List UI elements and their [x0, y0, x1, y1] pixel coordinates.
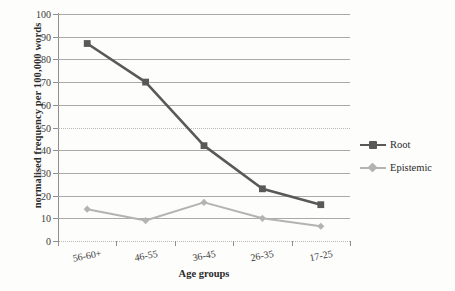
chart-container: normalised frequency per 100,000 words 0…	[0, 0, 455, 291]
chart-legend: Root Epistemic	[360, 133, 455, 179]
data-point-epistemic-2[interactable]	[200, 199, 207, 206]
data-point-root-2[interactable]	[201, 142, 208, 149]
series-line-root	[87, 44, 321, 205]
data-point-epistemic-0[interactable]	[84, 206, 91, 213]
y-tick-label: 0	[46, 236, 51, 247]
y-tick-label: 10	[41, 213, 51, 224]
x-tick-label: 56-60+	[72, 247, 103, 263]
x-axis-title: Age groups	[58, 268, 350, 279]
data-point-root-1[interactable]	[142, 79, 149, 86]
data-point-root-4[interactable]	[317, 201, 324, 208]
data-point-epistemic-4[interactable]	[317, 223, 324, 230]
plot-area: 0102030405060708090100 56-60+46-5536-452…	[58, 14, 350, 241]
legend-label-epistemic: Epistemic	[390, 162, 432, 173]
x-tick-label: 36-45	[191, 248, 216, 263]
legend-swatch-epistemic	[360, 162, 386, 174]
legend-item-root[interactable]: Root	[360, 133, 455, 156]
x-tick	[350, 241, 351, 246]
square-marker-icon	[369, 141, 377, 149]
y-tick-label: 100	[36, 9, 51, 20]
data-point-epistemic-3[interactable]	[259, 215, 266, 222]
data-point-epistemic-1[interactable]	[142, 217, 149, 224]
legend-item-epistemic[interactable]: Epistemic	[360, 156, 455, 179]
x-tick	[233, 241, 234, 246]
y-tick-label: 80	[41, 54, 51, 65]
data-point-root-0[interactable]	[84, 40, 91, 47]
gridline	[58, 241, 350, 242]
x-tick	[175, 241, 176, 246]
y-tick-label: 50	[41, 122, 51, 133]
y-tick-label: 60	[41, 99, 51, 110]
y-tick-label: 90	[41, 31, 51, 42]
x-tick	[116, 241, 117, 246]
x-tick-label: 26-35	[250, 248, 275, 263]
x-tick-label: 46-55	[133, 248, 158, 263]
y-tick-label: 70	[41, 77, 51, 88]
x-tick-label: 17-25	[308, 248, 333, 263]
diamond-marker-icon	[368, 162, 378, 172]
x-tick	[292, 241, 293, 246]
x-tick	[58, 241, 59, 246]
y-tick-label: 30	[41, 167, 51, 178]
legend-swatch-root	[360, 139, 386, 151]
series-plot	[58, 14, 350, 241]
legend-label-root: Root	[390, 139, 410, 150]
data-point-root-3[interactable]	[259, 185, 266, 192]
y-tick-label: 20	[41, 190, 51, 201]
y-tick-label: 40	[41, 145, 51, 156]
